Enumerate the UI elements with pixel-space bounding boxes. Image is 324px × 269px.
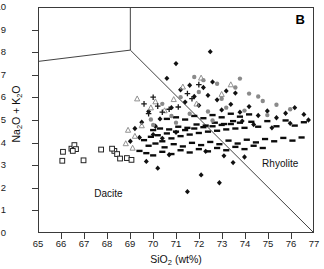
data-point	[214, 147, 220, 149]
data-point	[241, 148, 247, 150]
data-point	[110, 146, 115, 151]
data-point	[237, 115, 243, 117]
y-tick-label-3: 3	[0, 160, 6, 170]
data-point	[289, 139, 295, 141]
data-point	[169, 114, 173, 118]
data-point	[136, 150, 142, 152]
data-point	[118, 156, 123, 161]
data-point	[246, 113, 252, 115]
data-point	[173, 116, 179, 118]
data-point	[152, 142, 158, 144]
data-point	[215, 82, 219, 86]
y-tick-label-6: 6	[0, 92, 6, 102]
data-point	[247, 104, 252, 109]
boundary-trachyte-dacite-left	[39, 50, 130, 61]
data-point	[205, 130, 211, 132]
data-point	[274, 115, 279, 120]
data-point	[177, 149, 183, 151]
data-point	[148, 105, 153, 110]
data-point	[180, 84, 185, 89]
data-point	[251, 145, 257, 147]
data-point	[273, 125, 279, 127]
data-point	[182, 129, 188, 131]
data-point	[196, 82, 202, 88]
data-point	[171, 97, 176, 102]
data-point	[164, 76, 169, 81]
data-point	[174, 61, 179, 66]
data-point	[189, 142, 195, 144]
data-point	[191, 127, 197, 129]
data-point	[261, 99, 265, 103]
data-point	[221, 123, 227, 125]
y-tick-label-4: 4	[0, 138, 6, 148]
data-point	[216, 143, 222, 145]
data-point	[255, 126, 261, 128]
x-tick-mark-67	[84, 233, 85, 239]
data-point	[164, 118, 170, 120]
data-point	[198, 144, 204, 146]
data-layer	[39, 8, 313, 232]
data-point	[174, 121, 178, 125]
data-point	[221, 153, 226, 158]
data-point	[223, 149, 229, 151]
data-point	[139, 123, 144, 128]
y-tick-label-1: 1	[0, 205, 6, 215]
data-point	[219, 97, 223, 101]
data-point	[237, 109, 242, 114]
data-point	[225, 139, 231, 141]
data-point	[260, 147, 266, 149]
data-point	[210, 118, 214, 122]
data-point	[256, 113, 261, 118]
data-point	[188, 112, 192, 116]
data-point	[265, 113, 269, 117]
data-point	[217, 180, 222, 185]
data-point	[125, 156, 130, 161]
y-tick-label-8: 8	[0, 47, 6, 57]
data-point	[233, 85, 237, 89]
data-point	[219, 91, 224, 96]
data-point	[182, 118, 188, 120]
data-point	[141, 139, 147, 141]
data-point	[61, 149, 66, 154]
data-point	[70, 149, 75, 154]
data-point	[228, 123, 234, 125]
data-point	[244, 139, 250, 141]
data-point	[301, 112, 306, 117]
data-point	[158, 116, 163, 121]
data-point	[201, 85, 206, 90]
data-point	[235, 142, 241, 144]
data-point	[209, 114, 215, 116]
data-point	[157, 127, 163, 129]
data-point	[193, 123, 199, 125]
x-tick-mark-70	[153, 233, 154, 239]
y-tick-label-10: 10	[0, 2, 6, 12]
data-point	[187, 83, 192, 88]
data-point	[128, 139, 133, 144]
data-point	[173, 130, 179, 132]
y-tick-label-7: 7	[0, 70, 6, 80]
series-gray-circles	[149, 75, 293, 127]
data-point	[191, 115, 197, 117]
data-point	[196, 132, 202, 134]
x-tick-mark-72	[199, 233, 200, 239]
data-point	[183, 99, 188, 104]
data-point	[171, 143, 177, 145]
data-point	[99, 147, 104, 152]
x-tick-mark-74	[245, 233, 246, 239]
data-point	[155, 165, 160, 170]
data-point	[208, 49, 213, 54]
data-point	[256, 94, 260, 98]
data-point	[283, 119, 289, 121]
data-point	[228, 102, 233, 107]
data-point	[233, 90, 238, 95]
plot-area: DaciteRhyolite B	[38, 7, 314, 233]
data-point	[206, 109, 210, 113]
data-point	[248, 121, 254, 123]
data-point	[148, 136, 154, 138]
field-boundary-lines	[39, 8, 313, 232]
data-point	[164, 132, 170, 134]
data-point	[203, 124, 209, 126]
y-tick-label-2: 2	[0, 183, 6, 193]
data-point	[177, 135, 183, 137]
boundary-dacite-rhyolite-diagonal	[130, 50, 313, 232]
